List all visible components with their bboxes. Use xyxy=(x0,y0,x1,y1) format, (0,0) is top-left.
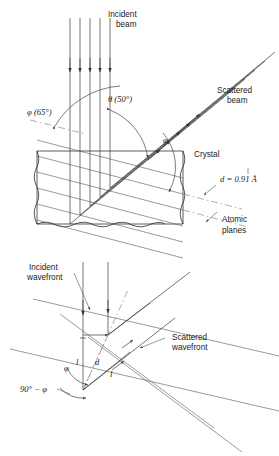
d-spacing-label: d = 0.91 Å xyxy=(220,174,258,184)
incident-wavefront-label-line1: Incident xyxy=(29,263,58,272)
incident-beam-rays xyxy=(70,18,110,224)
complement-arc xyxy=(60,388,86,398)
phi-angle-label: φ (65°) xyxy=(27,107,52,117)
incident-beam-label-line2: beam xyxy=(116,20,137,29)
normal-dashdot xyxy=(83,290,128,390)
atomic-planes-label-line1: Atomic xyxy=(222,215,247,224)
crystal-label: Crystal xyxy=(194,150,220,159)
scattered-beam-label-line2: beam xyxy=(227,96,248,105)
upper-plane-line xyxy=(33,299,279,356)
scattered-beam-label-line1: Scattered xyxy=(217,86,252,95)
theta-angle-label: θ (50°) xyxy=(108,94,132,104)
complement-leader xyxy=(57,389,70,394)
lower-plane-line xyxy=(10,349,279,411)
scattered-plane-a xyxy=(88,337,242,452)
l-right-segment xyxy=(83,352,130,390)
scattered-beam-rays xyxy=(70,52,275,224)
atomic-planes-label-line2: planes xyxy=(222,226,246,235)
diagram-canvas: Incident beam Scattered beam φ (65°) θ (… xyxy=(0,0,279,456)
incident-wavefront-leader xyxy=(74,273,90,310)
scattered-wavefront-label-line2: wavefront xyxy=(171,343,208,352)
scattered-wavefront-leader xyxy=(140,338,165,348)
d-leader xyxy=(204,185,216,195)
scattered-wavefront-label-line1: Scattered xyxy=(172,333,207,342)
plane-ref-upper xyxy=(183,194,242,209)
phi-arc-bottom xyxy=(67,368,88,385)
bottom-panel: Incident wavefront Scattered wavefront l… xyxy=(10,262,279,452)
incident-wavefront-label-line2: wavefront xyxy=(26,273,63,282)
d-center-label: d xyxy=(95,357,100,367)
l-left-label: l xyxy=(76,357,79,367)
complement-angle-label: 90° − φ xyxy=(20,384,47,394)
incident-beam-label-line1: Incident xyxy=(108,10,137,19)
scattered-arrow-a xyxy=(122,340,133,348)
scattered-ray-c xyxy=(108,303,150,335)
plane-ref-left xyxy=(30,120,86,134)
phi-bottom-label: φ xyxy=(64,363,69,373)
phi-interior-label: φ xyxy=(163,135,168,145)
top-panel: Incident beam Scattered beam φ (65°) θ (… xyxy=(27,10,275,258)
l-right-label: l xyxy=(110,369,113,379)
atomic-planes-leader xyxy=(206,212,217,222)
bragg-diffraction-figure: Incident beam Scattered beam φ (65°) θ (… xyxy=(0,0,279,456)
